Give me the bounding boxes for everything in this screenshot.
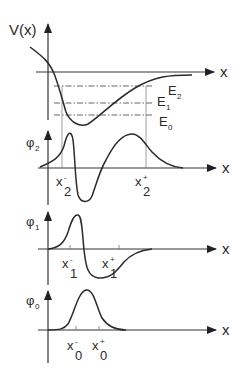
phi2-panel: φ 2 x x - 2 x + 2: [26, 131, 230, 205]
svg-text:+: +: [143, 173, 148, 182]
potential-panel: V(x) x E 2 E 1 E 0: [9, 21, 228, 168]
svg-text:2: 2: [64, 184, 71, 199]
svg-text:φ: φ: [26, 135, 34, 150]
svg-text:x: x: [135, 174, 142, 189]
phi0-curve: [48, 290, 126, 330]
potential-x-label: x: [220, 63, 228, 80]
svg-text:x: x: [67, 338, 74, 353]
svg-text:1: 1: [70, 266, 77, 281]
energy-label-e0: E 0: [159, 114, 173, 132]
svg-text:x: x: [56, 174, 63, 189]
phi2-curve: [40, 133, 183, 201]
svg-text:0: 0: [75, 348, 82, 363]
svg-text:φ: φ: [26, 293, 34, 308]
energy-label-e2: E 2: [168, 83, 182, 101]
svg-text:0: 0: [100, 348, 107, 363]
v-axis-label: V(x): [9, 21, 37, 38]
turning-point-x2-plus: x + 2: [135, 173, 150, 199]
svg-text:2: 2: [143, 184, 150, 199]
svg-text:1: 1: [166, 103, 171, 112]
svg-text:0: 0: [168, 123, 173, 132]
svg-text:x: x: [62, 256, 69, 271]
phi1-x-label: x: [222, 240, 230, 257]
svg-text:1: 1: [35, 223, 40, 232]
phi2-x-label: x: [222, 159, 230, 176]
svg-text:+: +: [110, 255, 115, 264]
phi0-x-label: x: [222, 321, 230, 338]
turning-point-x0-minus: x - 0: [67, 337, 82, 363]
svg-text:2: 2: [35, 144, 40, 153]
turning-point-x2-minus: x - 2: [56, 173, 71, 199]
phi2-label: φ 2: [26, 135, 40, 153]
phi1-label: φ 1: [26, 214, 40, 232]
svg-text:E: E: [157, 94, 166, 109]
svg-text:x: x: [92, 338, 99, 353]
svg-text:2: 2: [177, 92, 182, 101]
phi0-panel: φ 0 x x - 0 x + 0: [26, 290, 230, 363]
svg-text:E: E: [159, 114, 168, 129]
svg-text:-: -: [70, 255, 73, 264]
svg-text:φ: φ: [26, 214, 34, 229]
turning-point-x0-plus: x + 0: [92, 337, 107, 363]
svg-text:+: +: [100, 337, 105, 346]
phi0-label: φ 0: [26, 293, 40, 311]
svg-text:E: E: [168, 83, 177, 98]
svg-text:1: 1: [110, 266, 117, 281]
quantum-well-diagram: V(x) x E 2 E 1 E 0 φ 2 x: [0, 0, 244, 380]
svg-text:0: 0: [35, 302, 40, 311]
turning-point-x1-minus: x - 1: [62, 255, 77, 281]
svg-text:-: -: [75, 337, 78, 346]
svg-text:x: x: [102, 256, 109, 271]
phi1-panel: φ 1 x x - 1 x + 1: [26, 212, 230, 285]
svg-text:-: -: [64, 173, 67, 182]
